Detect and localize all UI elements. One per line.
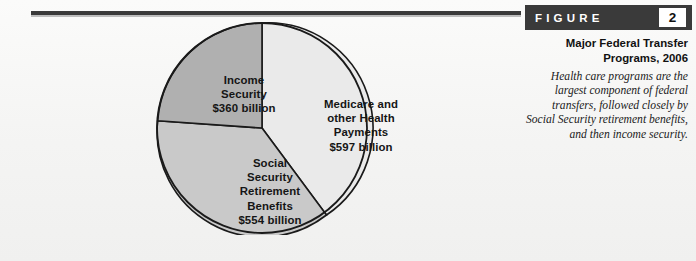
figure-panel: Income Security $360 billion Medicare an… [0,0,696,261]
pie-label-social-security: Social Security Retirement Benefits $554… [213,156,327,227]
pie-label-medicare: Medicare and other Health Payments $597 … [303,97,419,154]
figure-caption: Health care programs are the largest com… [521,70,692,142]
figure-sidebar: FIGURE 2 Major Federal Transfer Programs… [521,0,696,261]
figure-tag-label: FIGURE [535,12,659,24]
pie-chart-area: Income Security $360 billion Medicare an… [31,17,521,239]
figure-tag: FIGURE 2 [525,5,692,30]
figure-number-box: 2 [659,8,686,27]
figure-number: 2 [669,10,677,25]
pie-label-income-security: Income Security $360 billion [188,73,300,116]
figure-title: Major Federal Transfer Programs, 2006 [521,36,692,65]
